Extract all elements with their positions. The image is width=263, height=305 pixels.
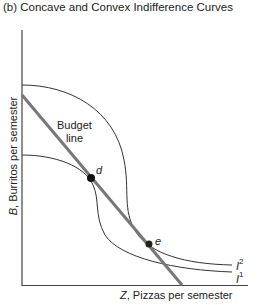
y-axis-label: B, Burritos per semester (7, 81, 19, 231)
point-d-label: d (96, 164, 102, 176)
indifference-curve-i1 (22, 155, 232, 272)
budget-line-label: Budget line (57, 119, 92, 145)
point-e (146, 241, 153, 248)
chart-plot-area (0, 0, 263, 305)
point-d (87, 174, 95, 182)
budget-line (22, 95, 182, 285)
indifference-curve-i2 (22, 85, 232, 265)
x-axis-label: Z, Pizzas per semester (120, 289, 233, 301)
point-e-label: e (155, 235, 161, 247)
curve-label-i1: I1 (236, 271, 244, 285)
